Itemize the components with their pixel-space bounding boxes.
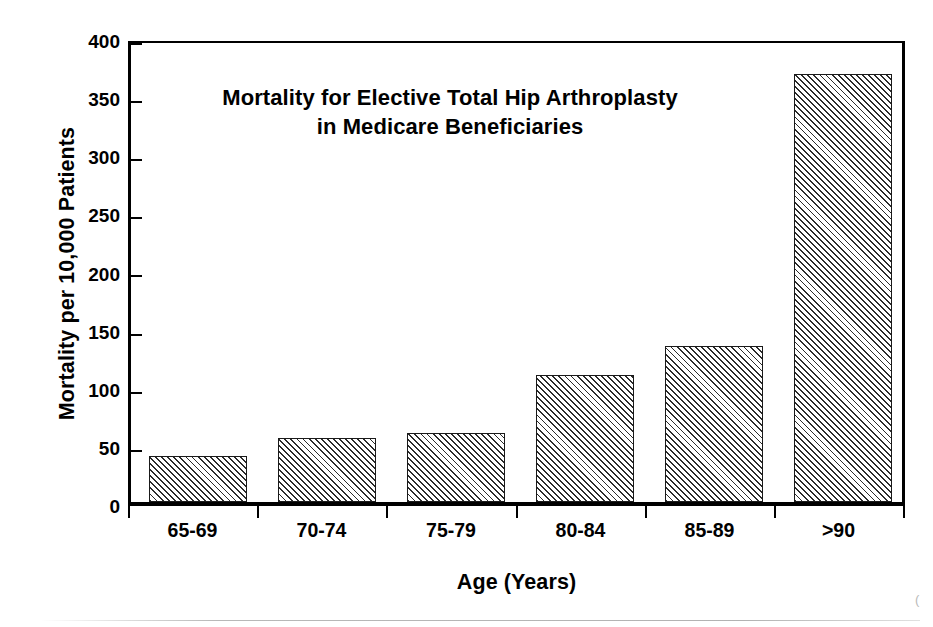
- x-tick-0: [128, 506, 130, 518]
- y-tick-150: [131, 334, 142, 336]
- y-tick-label-400: 400: [62, 32, 120, 51]
- y-tick-300: [131, 159, 142, 161]
- x-tick-label-85-89: 85-89: [645, 521, 774, 541]
- x-tick-4: [645, 506, 647, 518]
- y-tick-label-0: 0: [62, 497, 120, 516]
- y-tick-label-250: 250: [62, 206, 120, 225]
- bar-85-89: [665, 346, 763, 502]
- y-tick-label-150: 150: [62, 323, 120, 342]
- x-tick-3: [516, 506, 518, 518]
- y-tick-350: [131, 101, 142, 103]
- bar-65-69: [149, 456, 247, 503]
- x-tick-1: [257, 506, 259, 518]
- x-tick-5: [774, 506, 776, 518]
- bar-80-84: [536, 375, 634, 502]
- scan-artifact-mark: (: [915, 592, 919, 607]
- y-tick-label-100: 100: [62, 381, 120, 400]
- bar-75-79: [407, 433, 505, 502]
- y-tick-label-300: 300: [62, 148, 120, 167]
- y-tick-400: [131, 43, 142, 45]
- y-tick-200: [131, 275, 142, 277]
- y-tick-label-350: 350: [62, 90, 120, 109]
- y-tick-label-200: 200: [62, 265, 120, 284]
- x-tick-label-over-90: >90: [774, 521, 903, 541]
- x-tick-label-70-74: 70-74: [257, 521, 386, 541]
- y-tick-0: [131, 504, 142, 506]
- chart-title-line-2: in Medicare Beneficiaries: [150, 112, 750, 141]
- y-tick-50: [131, 450, 142, 452]
- bar-70-74: [278, 438, 376, 502]
- x-tick-6: [903, 506, 905, 518]
- x-axis-title: Age (Years): [128, 570, 905, 595]
- x-tick-2: [386, 506, 388, 518]
- chart-title-line-1: Mortality for Elective Total Hip Arthrop…: [222, 85, 678, 110]
- x-tick-label-65-69: 65-69: [128, 521, 257, 541]
- y-tick-250: [131, 217, 142, 219]
- y-tick-100: [131, 392, 142, 394]
- scan-artifact-line: [40, 620, 920, 621]
- y-tick-label-50: 50: [62, 439, 120, 458]
- bar-over-90: [794, 74, 892, 502]
- chart-title: Mortality for Elective Total Hip Arthrop…: [150, 83, 750, 142]
- x-tick-label-75-79: 75-79: [386, 521, 516, 541]
- x-tick-label-80-84: 80-84: [516, 521, 645, 541]
- figure: Mortality per 10,000 Patients 400 350 30…: [0, 0, 933, 627]
